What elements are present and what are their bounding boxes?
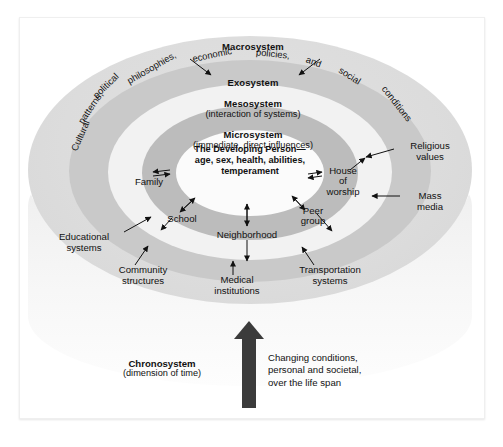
chrono-desc-line1: Changing conditions, bbox=[268, 352, 428, 364]
node-mass-media: Mass media bbox=[402, 191, 458, 212]
label-microsystem-title: Microsystem bbox=[20, 130, 485, 140]
node-family: Family bbox=[121, 177, 177, 187]
chronosystem-description: Changing conditions, personal and societ… bbox=[268, 352, 428, 389]
node-neighborhood: Neighborhood bbox=[201, 230, 293, 240]
node-community-structures: Community structures bbox=[100, 265, 186, 286]
node-educational-systems: Educational systems bbox=[42, 232, 126, 253]
node-mass-line2: media bbox=[402, 202, 458, 213]
node-school: School bbox=[156, 214, 208, 224]
node-comm-line2: structures bbox=[100, 276, 186, 287]
node-rel-line2: values bbox=[396, 152, 464, 163]
chronosystem-subtitle: (dimension of time) bbox=[92, 369, 232, 379]
node-peer-group-line2: group bbox=[292, 216, 334, 226]
core-line-1: The Developing Person— bbox=[170, 144, 330, 155]
node-medical-institutions: Medical institutions bbox=[196, 275, 278, 296]
chronosystem-label: Chronosystem (dimension of time) bbox=[92, 359, 232, 379]
label-mesosystem-title: Mesosystem bbox=[20, 99, 485, 109]
core-line-3: temperament bbox=[170, 166, 330, 177]
chronosystem-arrow-shaft bbox=[242, 335, 256, 408]
node-house-line3: worship bbox=[318, 187, 368, 197]
label-exosystem-title: Exosystem bbox=[20, 78, 485, 88]
label-macrosystem-title: Macrosystem bbox=[20, 42, 485, 52]
node-religious-values: Religious values bbox=[396, 141, 464, 162]
node-med-line2: institutions bbox=[196, 286, 278, 297]
node-edu-line2: systems bbox=[42, 243, 126, 254]
chrono-desc-line2: personal and societal, bbox=[268, 364, 428, 376]
core-developing-person: The Developing Person— age, sex, health,… bbox=[170, 144, 330, 178]
node-peer-group: Peer group bbox=[292, 206, 334, 227]
figure-frame: Culturalpatterns,politicalphilosophies,e… bbox=[19, 17, 485, 419]
node-trans-line2: systems bbox=[282, 276, 378, 287]
label-mesosystem-subtitle: (interaction of systems) bbox=[20, 110, 485, 120]
chrono-desc-line3: over the life span bbox=[268, 377, 428, 389]
node-house-of-worship: House of worship bbox=[318, 166, 368, 197]
figure-root: Culturalpatterns,politicalphilosophies,e… bbox=[0, 0, 503, 447]
node-transportation-systems: Transportation systems bbox=[282, 265, 378, 286]
core-line-2: age, sex, health, abilities, bbox=[170, 155, 330, 166]
